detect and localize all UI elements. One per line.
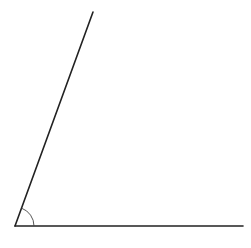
angle-figure (0, 0, 251, 248)
slanted-ray (15, 12, 93, 226)
angle-arc-marker (22, 208, 34, 226)
angle-diagram (0, 0, 251, 248)
